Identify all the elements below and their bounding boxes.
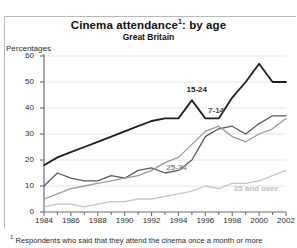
y-tick-label: 10 — [12, 181, 34, 190]
chart-svg — [0, 0, 297, 248]
y-tick-label: 0 — [12, 207, 34, 216]
x-tick-label: 1984 — [29, 216, 59, 225]
y-tick-label: 20 — [12, 155, 34, 164]
x-tick-label: 1996 — [190, 216, 220, 225]
series-line-7-14 — [44, 116, 286, 186]
series-label-25-34: 25-34 — [166, 163, 186, 172]
y-tick-label: 60 — [12, 51, 34, 60]
x-tick-label: 1988 — [83, 216, 113, 225]
series-label-7-14: 7-14 — [208, 106, 224, 115]
y-tick-label: 50 — [12, 77, 34, 86]
x-tick-label: 1998 — [217, 216, 247, 225]
chart-footnote: 1 Respondents who said that they attend … — [10, 232, 296, 246]
y-tick-label: 40 — [12, 103, 34, 112]
series-line-15-24 — [44, 64, 286, 165]
x-tick-label: 1992 — [137, 216, 167, 225]
chart-figure: Cinema attendance1: by age Great Britain… — [0, 0, 297, 248]
series-label-35-and-over: 35 and over — [234, 184, 278, 193]
plot-area: 0102030405060198419861988199019921994199… — [0, 0, 297, 248]
footnote-text: Respondents who said that they attend th… — [15, 236, 262, 245]
series-label-15-24: 15-24 — [187, 85, 207, 94]
x-tick-label: 1990 — [110, 216, 140, 225]
x-tick-label: 1986 — [56, 216, 86, 225]
footnote-marker: 1 — [10, 234, 13, 240]
x-tick-label: 2002 — [271, 216, 297, 225]
y-tick-label: 30 — [12, 129, 34, 138]
x-tick-label: 1994 — [163, 216, 193, 225]
x-tick-label: 2000 — [244, 216, 274, 225]
